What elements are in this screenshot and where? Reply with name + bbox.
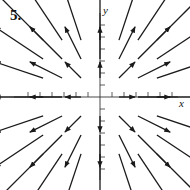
vector-arrows xyxy=(0,0,190,190)
vector-field-plot xyxy=(0,0,190,190)
x-axis-label: x xyxy=(179,97,184,109)
y-axis-label: y xyxy=(103,4,108,16)
